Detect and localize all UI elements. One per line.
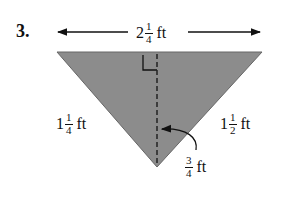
height-label: 34 ft: [184, 155, 206, 179]
right-side-label: 1 12 ft: [220, 112, 250, 136]
left-side-label: 1 14 ft: [56, 112, 86, 136]
problem-number: 3.: [16, 22, 30, 40]
top-side-label: 2 14 ft: [136, 21, 166, 45]
triangle: [57, 52, 262, 167]
